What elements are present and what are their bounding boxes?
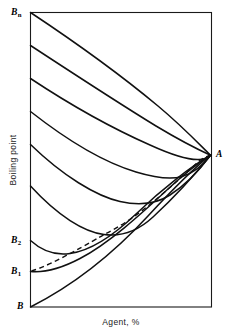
curve-6 — [31, 79, 211, 160]
point-label-a: A — [216, 150, 222, 160]
point-label-b: B — [17, 302, 23, 312]
plot-frame — [31, 13, 212, 308]
chart-figure: Boiling point Agent, % Bn B2 B1 B A — [0, 0, 252, 333]
curve-bn — [31, 13, 211, 156]
point-label-b1-base: B — [11, 266, 17, 276]
curve-7 — [31, 46, 211, 156]
point-label-b1: B1 — [11, 267, 21, 277]
curve-b2 — [31, 155, 211, 254]
x-axis-label: Agent, % — [30, 317, 212, 327]
point-label-bn-base: B — [11, 7, 17, 17]
point-label-bn-subscript: n — [18, 11, 22, 18]
point-label-b1-subscript: 1 — [18, 270, 21, 277]
point-label-b2-base: B — [11, 235, 17, 245]
point-label-b2: B2 — [11, 236, 21, 246]
point-label-bn: Bn — [11, 8, 21, 18]
y-axis-label: Boiling point — [8, 120, 18, 200]
boiling-point-plot — [0, 0, 252, 333]
point-label-b2-subscript: 2 — [18, 239, 21, 246]
